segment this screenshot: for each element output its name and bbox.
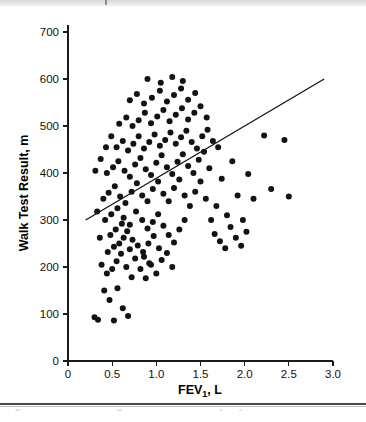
data-point	[132, 256, 138, 262]
data-point	[108, 133, 114, 139]
data-point	[286, 194, 292, 200]
data-point	[180, 78, 186, 84]
data-point	[118, 251, 124, 257]
data-point	[139, 217, 145, 223]
x-tick-label: 1.5	[193, 368, 209, 380]
data-point	[268, 186, 274, 192]
data-point	[164, 164, 170, 170]
data-point	[182, 193, 188, 199]
data-point	[203, 196, 209, 202]
y-tick-label: 0	[53, 355, 59, 367]
data-point	[185, 163, 191, 169]
data-point	[178, 134, 184, 140]
data-point	[152, 131, 158, 137]
data-point	[187, 203, 193, 209]
data-point	[107, 297, 113, 303]
data-point	[235, 193, 241, 199]
data-point	[116, 241, 122, 247]
data-point	[123, 115, 129, 121]
data-point	[171, 240, 177, 246]
data-point	[113, 226, 119, 232]
data-point	[149, 95, 155, 101]
data-point	[120, 138, 126, 144]
data-point	[135, 242, 141, 248]
data-point	[142, 110, 148, 116]
data-point	[233, 235, 239, 241]
data-point	[212, 231, 218, 237]
data-point	[129, 274, 135, 280]
data-point	[194, 146, 200, 152]
data-point	[122, 200, 128, 206]
data-point	[183, 128, 189, 134]
data-point	[162, 137, 168, 143]
data-point	[198, 178, 204, 184]
data-point	[101, 288, 107, 294]
data-point	[129, 123, 135, 129]
y-tick-label: 700	[40, 26, 59, 38]
data-point	[141, 146, 147, 152]
data-point	[132, 162, 138, 168]
data-point	[176, 177, 182, 183]
data-point	[190, 170, 196, 176]
data-point	[137, 155, 143, 161]
data-point	[164, 250, 170, 256]
x-axis-title: FEV1, L	[178, 383, 222, 399]
data-point	[228, 224, 234, 230]
data-point	[145, 241, 151, 247]
x-tick-label: 1.0	[148, 368, 164, 380]
data-point	[114, 205, 120, 211]
data-point	[120, 305, 126, 311]
data-point	[146, 139, 152, 145]
x-axis-ticks: 00.51.01.52.02.53.0	[65, 361, 341, 380]
data-point	[206, 165, 212, 171]
data-point	[164, 99, 170, 105]
data-point	[121, 215, 127, 221]
data-point	[182, 217, 188, 223]
x-tick-label: 2.5	[281, 368, 297, 380]
data-point	[122, 168, 128, 174]
data-point	[141, 254, 147, 260]
data-point	[155, 211, 161, 217]
data-point	[157, 88, 163, 94]
data-point	[245, 171, 251, 177]
data-point	[114, 144, 120, 150]
scan-edge-band	[0, 0, 366, 7]
data-point	[205, 127, 211, 133]
data-point	[169, 171, 175, 177]
data-point	[136, 133, 142, 139]
data-point	[192, 90, 198, 96]
data-point	[109, 266, 115, 272]
data-point	[160, 191, 166, 197]
data-point	[95, 317, 101, 323]
data-point	[157, 143, 163, 149]
data-point	[159, 257, 165, 263]
y-axis-ticks: 0100200300400500600700	[40, 26, 68, 367]
data-point	[145, 76, 151, 82]
data-point	[178, 85, 184, 91]
data-point	[98, 156, 104, 162]
data-point	[136, 117, 142, 123]
y-tick-label: 100	[40, 308, 59, 320]
data-point	[119, 221, 125, 227]
data-point	[238, 243, 244, 249]
data-point	[130, 141, 136, 147]
data-point	[171, 185, 177, 191]
data-point	[261, 132, 267, 138]
data-point	[127, 174, 133, 180]
data-point	[145, 198, 151, 204]
data-point	[141, 100, 147, 106]
data-point	[150, 219, 156, 225]
data-point	[114, 285, 120, 291]
data-point	[217, 238, 223, 244]
data-point	[153, 160, 159, 166]
data-point	[92, 168, 98, 174]
data-point	[155, 178, 161, 184]
data-point	[104, 170, 110, 176]
data-point	[111, 318, 117, 324]
data-point	[151, 233, 157, 239]
data-point	[99, 262, 105, 268]
data-point	[105, 249, 111, 255]
data-point	[196, 157, 202, 163]
data-point	[114, 258, 120, 264]
data-point	[125, 147, 131, 153]
